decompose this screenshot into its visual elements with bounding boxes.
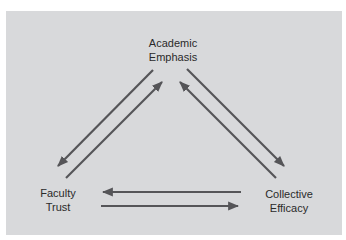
node-collective-efficacy: Collective Efficacy — [258, 187, 320, 215]
arrow-academic-to-faculty — [58, 70, 153, 166]
node-academic-emphasis: Academic Emphasis — [144, 36, 202, 64]
arrow-academic-to-collective — [187, 69, 284, 166]
node-label-line: Emphasis — [144, 50, 202, 64]
node-label-line: Faculty — [33, 186, 83, 200]
node-label-line: Efficacy — [258, 201, 320, 215]
node-label-line: Trust — [33, 200, 83, 214]
node-faculty-trust: Faculty Trust — [33, 186, 83, 214]
node-label-line: Academic — [144, 36, 202, 50]
node-label-line: Collective — [258, 187, 320, 201]
arrow-collective-to-academic — [180, 82, 276, 178]
arrow-faculty-to-academic — [66, 82, 162, 178]
